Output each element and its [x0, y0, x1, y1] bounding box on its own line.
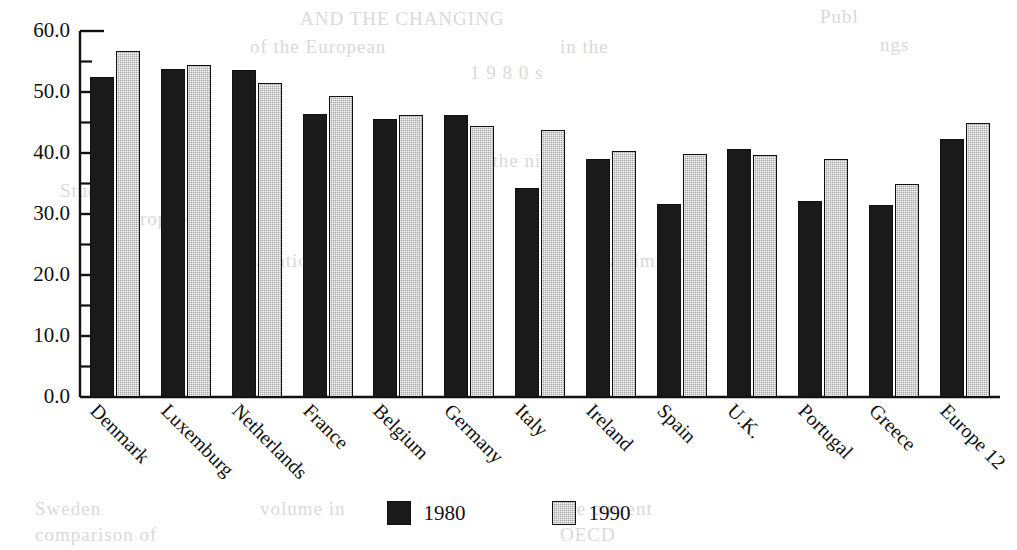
bar-1990[interactable]: [753, 155, 777, 397]
bar-1980[interactable]: [373, 119, 397, 397]
bar-group: [657, 31, 707, 397]
x-axis-label: Italy: [512, 400, 552, 440]
bar-1990[interactable]: [399, 115, 423, 397]
x-axis-label: Denmark: [87, 400, 154, 467]
bar-group: [161, 31, 211, 397]
bar-1990[interactable]: [895, 184, 919, 398]
bar-chart: AND THE CHANGINGof the Europeanin the1 9…: [0, 0, 1017, 550]
bar-1980[interactable]: [798, 201, 822, 397]
bar-1990[interactable]: [116, 51, 140, 397]
legend-label: 1980: [424, 503, 466, 524]
bar-1980[interactable]: [869, 205, 893, 397]
bar-1990[interactable]: [966, 123, 990, 398]
bar-1980[interactable]: [727, 149, 751, 397]
bar-group: [869, 31, 919, 397]
bar-1980[interactable]: [586, 159, 610, 397]
bar-group: [373, 31, 423, 397]
bar-1980[interactable]: [303, 114, 327, 397]
gray-square-swatch: [552, 501, 576, 525]
bar-group: [798, 31, 848, 397]
x-axis-label: Greece: [866, 400, 920, 454]
x-axis-label: Europe 12: [936, 400, 1009, 473]
bar-1980[interactable]: [940, 139, 964, 397]
bar-1980[interactable]: [657, 204, 681, 397]
x-axis-label: Luxemburg: [158, 400, 238, 480]
legend-label: 1990: [589, 503, 631, 524]
x-axis-label: Portugal: [795, 400, 857, 462]
x-axis-label: France: [300, 400, 353, 453]
legend: 19801990: [0, 496, 1017, 530]
x-axis-category-labels: DenmarkLuxemburgNetherlandsFranceBelgium…: [80, 400, 1000, 490]
black-square-swatch: [387, 501, 411, 525]
bar-1990[interactable]: [541, 130, 565, 397]
bar-1990[interactable]: [258, 83, 282, 397]
legend-entry[interactable]: 1980: [387, 501, 466, 525]
x-axis-label: Ireland: [583, 400, 637, 454]
x-axis-label: U.K.: [724, 400, 766, 442]
legend-entry[interactable]: 1990: [552, 501, 631, 525]
x-axis-label: Spain: [653, 400, 699, 446]
bar-group: [90, 31, 140, 397]
bar-1990[interactable]: [470, 126, 494, 397]
bar-1980[interactable]: [90, 77, 114, 397]
x-axis-label: Belgium: [370, 400, 433, 463]
bar-1990[interactable]: [612, 151, 636, 397]
bar-1990[interactable]: [187, 65, 211, 397]
bar-1990[interactable]: [329, 96, 353, 397]
bar-group: [444, 31, 494, 397]
bar-1980[interactable]: [444, 115, 468, 397]
bar-group: [303, 31, 353, 397]
bar-group: [515, 31, 565, 397]
x-axis-label: Germany: [441, 400, 508, 467]
bar-group: [586, 31, 636, 397]
bar-group: [727, 31, 777, 397]
bar-1990[interactable]: [683, 154, 707, 397]
bar-1990[interactable]: [824, 159, 848, 397]
plot-area: [80, 31, 960, 397]
x-axis-label: Netherlands: [229, 400, 311, 482]
bar-1980[interactable]: [161, 69, 185, 397]
bar-group: [940, 31, 990, 397]
bar-1980[interactable]: [515, 188, 539, 397]
bar-group: [232, 31, 282, 397]
bar-1980[interactable]: [232, 70, 256, 397]
